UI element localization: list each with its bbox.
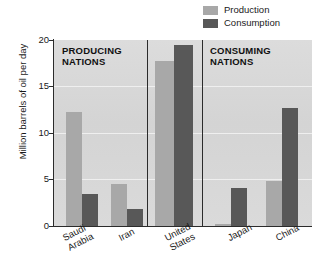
y-tick-label-0: 0 [3, 220, 49, 231]
legend-label-consumption: Consumption [224, 18, 280, 28]
bar-united-states-production [155, 61, 174, 226]
y-tick-label-15: 15 [3, 80, 49, 91]
panel-separator-2 [202, 40, 203, 226]
bar-iran-production [111, 184, 127, 226]
y-tick-label-20: 20 [3, 34, 49, 45]
chart-legend: Production Consumption [203, 5, 280, 28]
panel-separator-1 [147, 40, 148, 226]
bar-china-consumption [282, 108, 298, 226]
bar-japan-consumption [231, 188, 247, 226]
x-label-iran: Iran [117, 227, 136, 244]
y-tick-label-10: 10 [3, 127, 49, 138]
panel-title-producing: PRODUCING NATIONS [62, 45, 122, 67]
plot-area: PRODUCING NATIONS CONSUMING NATIONS [54, 40, 312, 226]
bar-japan-production [215, 224, 231, 226]
legend-item-consumption: Consumption [203, 18, 280, 28]
oil-production-consumption-chart: Production Consumption Million barrels o… [0, 0, 319, 272]
panel-title-consuming: CONSUMING NATIONS [210, 45, 271, 67]
legend-swatch-production [203, 6, 218, 15]
bar-saudi-production [66, 112, 82, 226]
legend-label-production: Production [224, 5, 269, 15]
y-tick-label-5: 5 [3, 173, 49, 184]
bar-united-states-consumption [174, 45, 193, 226]
legend-item-production: Production [203, 5, 280, 15]
bar-china-production [266, 181, 282, 226]
legend-swatch-consumption [203, 19, 218, 28]
bar-iran-consumption [127, 209, 143, 226]
